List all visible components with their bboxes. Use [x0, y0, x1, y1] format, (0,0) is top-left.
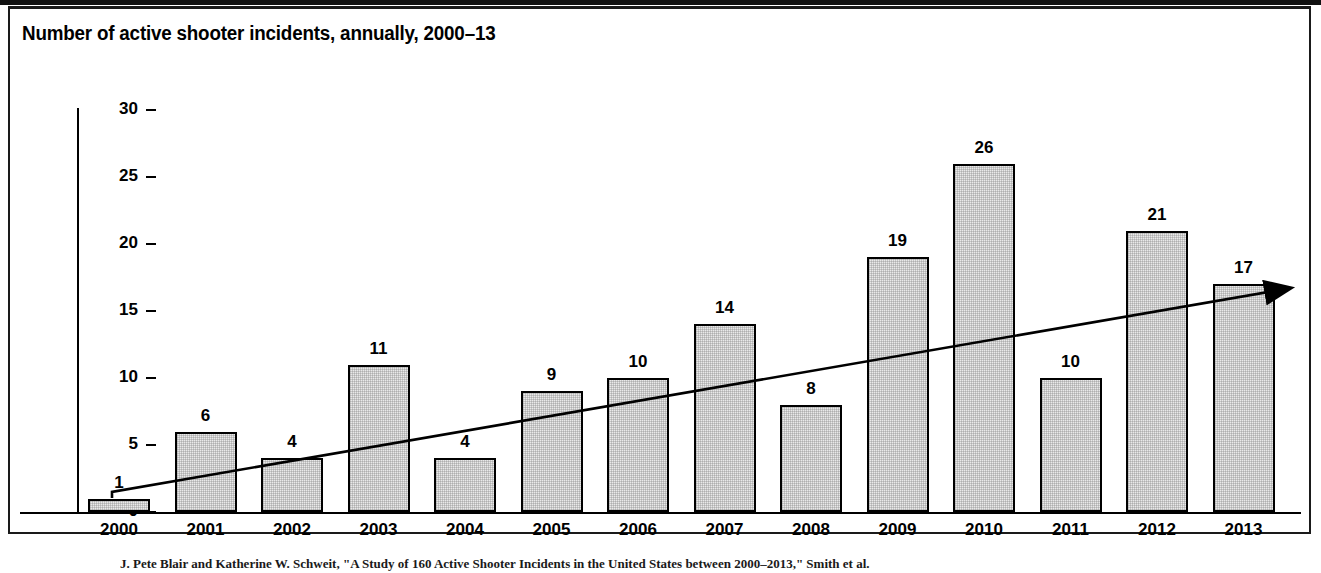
x-tick-label-2008: 2008: [772, 520, 850, 540]
bar-value-2000: 1: [88, 473, 150, 493]
bar-2007: [694, 324, 756, 512]
bar-value-2001: 6: [175, 406, 237, 426]
figure-page: Number of active shooter incidents, annu…: [0, 0, 1321, 573]
bar-2001: [175, 432, 237, 512]
x-tick-label-2012: 2012: [1118, 520, 1196, 540]
bar-value-2009: 19: [867, 231, 929, 251]
y-tick-label: 15: [119, 300, 138, 320]
x-tick-label-2005: 2005: [513, 520, 591, 540]
bar-2005: [521, 391, 583, 512]
bar-2008: [780, 405, 842, 512]
bar-value-2011: 10: [1040, 352, 1102, 372]
bar-value-2004: 4: [434, 432, 496, 452]
y-tick-label: 25: [119, 166, 138, 186]
y-tick-label: 30: [119, 99, 138, 119]
bar-2000: [88, 499, 150, 512]
y-tick-label: 20: [119, 233, 138, 253]
x-tick-label-2000: 2000: [80, 520, 158, 540]
top-rule: [0, 0, 1321, 5]
x-tick-label-2011: 2011: [1032, 520, 1110, 540]
x-tick-label-2001: 2001: [167, 520, 245, 540]
source-caption: J. Pete Blair and Katherine W. Schweit, …: [120, 556, 1300, 572]
y-tick-mark: [146, 243, 156, 245]
bar-value-2010: 26: [953, 138, 1015, 158]
bar-2009: [867, 257, 929, 512]
bar-2006: [607, 378, 669, 512]
chart-title: Number of active shooter incidents, annu…: [22, 22, 495, 45]
y-tick-mark: [146, 444, 156, 446]
x-tick-label-2002: 2002: [253, 520, 331, 540]
x-tick-label-2003: 2003: [340, 520, 418, 540]
bar-2010: [953, 164, 1015, 512]
y-tick-label: 5: [129, 434, 138, 454]
bar-2002: [261, 458, 323, 512]
x-axis-line: [20, 512, 1301, 514]
x-tick-label-2007: 2007: [686, 520, 764, 540]
bar-2013: [1213, 284, 1275, 512]
y-tick-mark: [146, 176, 156, 178]
bar-2012: [1126, 231, 1188, 512]
bar-value-2007: 14: [694, 298, 756, 318]
y-tick-label: 10: [119, 367, 138, 387]
x-tick-label-2013: 2013: [1205, 520, 1283, 540]
bar-2003: [348, 365, 410, 512]
y-tick-mark: [146, 310, 156, 312]
x-tick-label-2006: 2006: [599, 520, 677, 540]
y-tick-mark: [146, 377, 156, 379]
bar-value-2003: 11: [348, 339, 410, 359]
x-tick-label-2004: 2004: [426, 520, 504, 540]
x-tick-label-2009: 2009: [859, 520, 937, 540]
bar-2004: [434, 458, 496, 512]
bar-value-2013: 17: [1213, 258, 1275, 278]
bar-value-2005: 9: [521, 365, 583, 385]
x-tick-label-2010: 2010: [945, 520, 1023, 540]
bar-value-2012: 21: [1126, 205, 1188, 225]
bar-value-2002: 4: [261, 432, 323, 452]
bar-value-2008: 8: [780, 379, 842, 399]
bar-2011: [1040, 378, 1102, 512]
y-tick-mark: [146, 109, 156, 111]
bar-value-2006: 10: [607, 352, 669, 372]
plot-area: 051015202530 1641149101481926102117: [78, 110, 1300, 512]
